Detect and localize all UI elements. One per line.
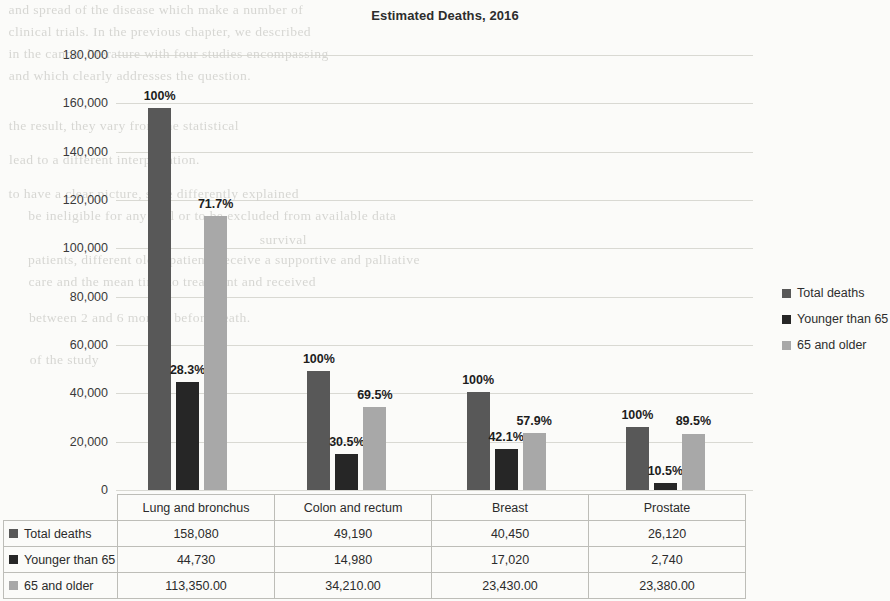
legend-item[interactable]: Total deaths [782, 280, 890, 306]
bar [363, 407, 386, 490]
gridline [116, 55, 753, 56]
scanned-chart-page: and spread of the disease which make a n… [0, 0, 890, 601]
bleed-text: clinical trials. In the previous chapter… [9, 24, 312, 40]
table-column-header: Prostate [589, 495, 746, 521]
bar [626, 427, 649, 490]
table-swatch-icon [9, 555, 18, 564]
bar [654, 483, 677, 490]
table-cell: 49,190 [275, 521, 432, 547]
table-row: Younger than 6544,73014,98017,0202,740 [4, 547, 746, 573]
legend-item-label: Younger than 65 [797, 312, 888, 326]
table-column-header: Lung and bronchus [118, 495, 275, 521]
bar-value-label: 71.7% [198, 197, 233, 211]
legend-item[interactable]: 65 and older [782, 332, 890, 358]
y-axis-tick-label: 180,000 [36, 48, 108, 62]
bar [523, 433, 546, 490]
chart-title: Estimated Deaths, 2016 [0, 8, 890, 23]
bar-value-label: 57.9% [516, 414, 551, 428]
legend-swatch-icon [782, 315, 791, 324]
y-axis-tick-label: 120,000 [36, 193, 108, 207]
bar [148, 108, 171, 490]
table-row: Total deaths158,08049,19040,45026,120 [4, 521, 746, 547]
bar-value-label: 42.1% [488, 430, 523, 444]
bar [335, 454, 358, 490]
table-cell: 14,980 [275, 547, 432, 573]
table-cell: 113,350.00 [118, 573, 275, 599]
legend-swatch-icon [782, 289, 791, 298]
table-row-header: 65 and older [4, 573, 118, 599]
bar [204, 216, 227, 490]
legend-item-label: 65 and older [797, 338, 867, 352]
table-cell: 40,450 [432, 521, 589, 547]
table-row-label: 65 and older [24, 579, 94, 593]
plot-area: 100%28.3%71.7%100%30.5%69.5%100%42.1%57.… [116, 55, 753, 490]
table-swatch-icon [9, 581, 18, 590]
bar-value-label: 69.5% [357, 388, 392, 402]
bar-value-label: 30.5% [329, 435, 364, 449]
table-column-header: Colon and rectum [275, 495, 432, 521]
gridline [116, 103, 753, 104]
table-cell: 2,740 [589, 547, 746, 573]
bar [495, 449, 518, 490]
table-row-header: Total deaths [4, 521, 118, 547]
bar-value-label: 89.5% [676, 414, 711, 428]
table-cell: 17,020 [432, 547, 589, 573]
table-body: Total deaths158,08049,19040,45026,120You… [4, 521, 746, 599]
table-row-label: Total deaths [24, 527, 91, 541]
table-row: 65 and older113,350.0034,210.0023,430.00… [4, 573, 746, 599]
gridline [116, 152, 753, 153]
bar [307, 371, 330, 490]
y-axis-tick-label: 160,000 [36, 96, 108, 110]
table-cell: 23,380.00 [589, 573, 746, 599]
bar-value-label: 100% [144, 89, 176, 103]
legend-swatch-icon [782, 341, 791, 350]
table-cell: 158,080 [118, 521, 275, 547]
table-row-header: Younger than 65 [4, 547, 118, 573]
bleed-text: of the study [30, 352, 99, 368]
legend-item-label: Total deaths [797, 286, 864, 300]
y-axis-tick-label: 40,000 [36, 386, 108, 400]
table-cell: 23,430.00 [432, 573, 589, 599]
table-cell: 34,210.00 [275, 573, 432, 599]
bar-value-label: 100% [303, 352, 335, 366]
gridline [116, 490, 753, 491]
data-table: Lung and bronchusColon and rectumBreastP… [3, 494, 746, 599]
table-header-row: Lung and bronchusColon and rectumBreastP… [4, 495, 746, 521]
legend-item[interactable]: Younger than 65 [782, 306, 890, 332]
bar [176, 382, 199, 490]
y-axis-tick-label: 80,000 [36, 290, 108, 304]
chart-legend: Total deathsYounger than 6565 and older [782, 280, 890, 358]
y-axis-tick-label: 140,000 [36, 145, 108, 159]
table-cell: 26,120 [589, 521, 746, 547]
bar-value-label: 28.3% [170, 363, 205, 377]
bar [467, 392, 490, 490]
table-cell: 44,730 [118, 547, 275, 573]
bar-value-label: 100% [462, 373, 494, 387]
y-axis-tick-label: 60,000 [36, 338, 108, 352]
y-axis-tick-label: 100,000 [36, 241, 108, 255]
table-swatch-icon [9, 529, 18, 538]
bar [682, 434, 705, 491]
table-corner-cell [4, 495, 118, 521]
table-row-label: Younger than 65 [24, 553, 115, 567]
table-column-header: Breast [432, 495, 589, 521]
y-axis-tick-label: 20,000 [36, 435, 108, 449]
bar-value-label: 100% [621, 408, 653, 422]
bar-value-label: 10.5% [648, 464, 683, 478]
